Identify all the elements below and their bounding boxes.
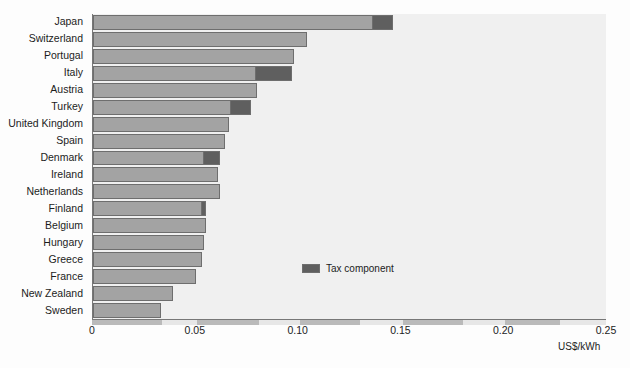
bar-row <box>93 217 606 234</box>
bar-segment-base <box>94 50 293 63</box>
chart-page: REGULATORY REFORM IN THE... Figure 3.1 i… <box>0 0 630 368</box>
x-axis-tick-0: 0 <box>89 324 95 336</box>
y-axis-label-austria: Austria <box>50 84 83 95</box>
bar-segment-base <box>94 304 160 317</box>
scan-artifact-band <box>92 320 606 325</box>
x-axis-tick-0-20: 0.20 <box>493 324 513 336</box>
legend-swatch-tax-component <box>302 264 320 273</box>
bar-row <box>93 116 606 133</box>
bar-row <box>93 302 606 319</box>
bar-segment-base <box>94 101 230 114</box>
bar-row <box>93 48 606 65</box>
y-axis-label-denmark: Denmark <box>40 152 83 163</box>
bar-segment-base <box>94 135 224 148</box>
x-axis-line <box>92 319 606 320</box>
bar-segment-base <box>94 16 372 29</box>
scan-artifact-4 <box>403 320 463 325</box>
legend: Tax component <box>302 263 394 274</box>
y-axis-label-belgium: Belgium <box>45 220 83 231</box>
bar-row <box>93 65 606 82</box>
bar-row <box>93 285 606 302</box>
y-axis-label-sweden: Sweden <box>45 305 83 316</box>
x-axis-title: US$/kWh <box>558 341 600 352</box>
bar-segment-base <box>94 185 219 198</box>
bar-row <box>93 133 606 150</box>
scan-artifact-2 <box>197 320 259 325</box>
bar-segment-base <box>94 219 205 232</box>
bar-segment-base <box>94 168 217 181</box>
bar-austria <box>93 83 257 98</box>
bar-segment-tax <box>203 152 219 165</box>
y-axis-label-switzerland: Switzerland <box>29 33 83 44</box>
bar-netherlands <box>93 184 220 199</box>
bar-france <box>93 269 196 284</box>
y-axis-label-ireland: Ireland <box>51 169 83 180</box>
bar-japan <box>93 15 393 30</box>
y-axis-label-greece: Greece <box>49 254 83 265</box>
y-axis-label-italy: Italy <box>64 67 83 78</box>
y-axis-label-spain: Spain <box>56 135 83 146</box>
bar-italy <box>93 66 292 81</box>
bar-row <box>93 183 606 200</box>
bar-sweden <box>93 303 161 318</box>
bar-segment-tax <box>372 16 392 29</box>
bar-row <box>93 150 606 167</box>
y-axis-label-japan: Japan <box>54 16 83 27</box>
bar-segment-tax <box>201 202 205 215</box>
x-axis-tick-0-15: 0.15 <box>390 324 410 336</box>
bar-finland <box>93 201 206 216</box>
bar-segment-base <box>94 253 201 266</box>
bar-new-zealand <box>93 286 173 301</box>
bar-segment-base <box>94 33 306 46</box>
y-axis-label-turkey: Turkey <box>51 101 83 112</box>
bar-row <box>93 14 606 31</box>
bar-denmark <box>93 151 220 166</box>
bar-segment-base <box>94 152 203 165</box>
bar-ireland <box>93 167 218 182</box>
y-axis-label-netherlands: Netherlands <box>26 186 83 197</box>
bar-segment-base <box>94 287 172 300</box>
bar-row <box>93 200 606 217</box>
bar-turkey <box>93 100 251 115</box>
x-axis-tick-0-25: 0.25 <box>596 324 616 336</box>
bar-segment-base <box>94 236 203 249</box>
bar-spain <box>93 134 225 149</box>
bar-row <box>93 82 606 99</box>
y-axis-label-france: France <box>50 271 83 282</box>
bar-segment-base <box>94 84 256 97</box>
y-axis-labels: JapanSwitzerlandPortugalItalyAustriaTurk… <box>0 14 88 319</box>
y-axis-label-finland: Finland <box>49 203 83 214</box>
y-axis-label-hungary: Hungary <box>43 237 83 248</box>
bar-row <box>93 99 606 116</box>
bar-row <box>93 234 606 251</box>
bar-segment-base <box>94 202 201 215</box>
bar-united-kingdom <box>93 117 229 132</box>
y-axis-label-united-kingdom: United Kingdom <box>8 118 83 129</box>
y-axis-label-new-zealand: New Zealand <box>21 288 83 299</box>
x-axis-tick-0-10: 0.10 <box>287 324 307 336</box>
scan-artifact-3 <box>300 320 360 325</box>
y-axis-label-portugal: Portugal <box>44 50 83 61</box>
bar-belgium <box>93 218 206 233</box>
bar-segment-tax <box>230 101 250 114</box>
bar-segment-tax <box>255 67 292 80</box>
bar-hungary <box>93 235 204 250</box>
bar-switzerland <box>93 32 307 47</box>
bar-segment-base <box>94 67 255 80</box>
bar-portugal <box>93 49 294 64</box>
bar-row <box>93 31 606 48</box>
bar-segment-base <box>94 270 195 283</box>
scan-artifact-1 <box>92 320 162 325</box>
bar-greece <box>93 252 202 267</box>
bar-row <box>93 166 606 183</box>
x-axis-tick-0-05: 0.05 <box>185 324 205 336</box>
legend-label-tax-component: Tax component <box>326 263 394 274</box>
bar-segment-base <box>94 118 228 131</box>
